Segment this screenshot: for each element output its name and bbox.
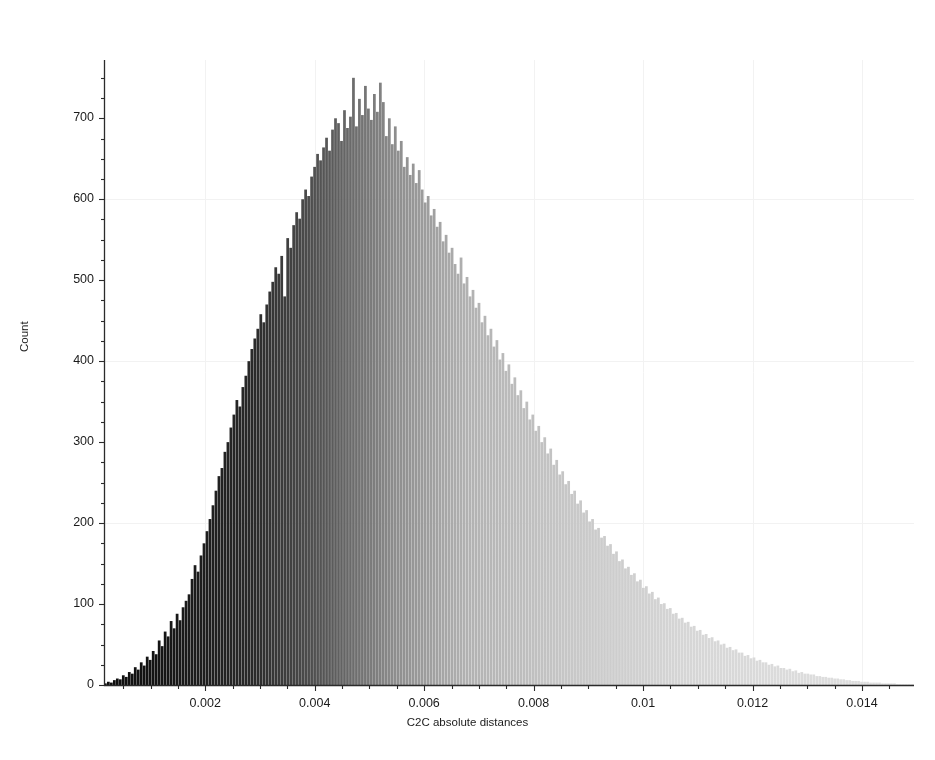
histogram-figure: C2C absolute distances (49553 values) [2… <box>0 0 935 760</box>
y-tick-label: 0 <box>48 677 94 691</box>
y-tick-label: 500 <box>48 272 94 286</box>
y-axis-label: Count <box>18 321 30 352</box>
y-tick-label: 100 <box>48 596 94 610</box>
x-tick-label: 0.002 <box>170 696 240 710</box>
y-tick-label: 200 <box>48 515 94 529</box>
x-tick-label: 0.006 <box>389 696 459 710</box>
histogram-plot-canvas <box>0 0 935 760</box>
x-tick-label: 0.004 <box>280 696 350 710</box>
x-tick-label: 0.008 <box>499 696 569 710</box>
x-tick-label: 0.01 <box>608 696 678 710</box>
x-axis-label: C2C absolute distances <box>0 716 935 728</box>
y-tick-label: 600 <box>48 191 94 205</box>
x-tick-label: 0.012 <box>718 696 788 710</box>
y-tick-label: 400 <box>48 353 94 367</box>
y-tick-label: 300 <box>48 434 94 448</box>
y-tick-label: 700 <box>48 110 94 124</box>
x-tick-label: 0.014 <box>827 696 897 710</box>
